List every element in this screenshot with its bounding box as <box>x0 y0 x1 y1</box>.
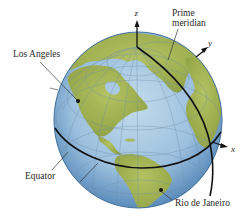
z-axis-label: z <box>134 8 139 18</box>
land-caribbean <box>125 138 135 141</box>
equator-label: Equator <box>25 171 56 181</box>
prime-meridian-label-line2: meridian <box>172 18 206 28</box>
rio-dot <box>159 188 163 192</box>
y-axis: y <box>196 38 212 57</box>
x-axis-arrowhead <box>220 143 228 148</box>
los-angeles-tick <box>50 88 58 90</box>
globe-diagram: z y x Los Angeles Prime meridian Equator… <box>0 0 242 219</box>
los-angeles-dot <box>76 99 80 103</box>
los-angeles-label: Los Angeles <box>13 49 61 59</box>
globe <box>54 32 222 216</box>
x-axis-label: x <box>230 144 235 154</box>
prime-meridian-label-line1: Prime <box>172 8 195 18</box>
y-axis-label: y <box>207 38 212 48</box>
rio-label: Rio de Janeiro <box>175 198 230 208</box>
z-axis-arrowhead <box>135 20 140 27</box>
